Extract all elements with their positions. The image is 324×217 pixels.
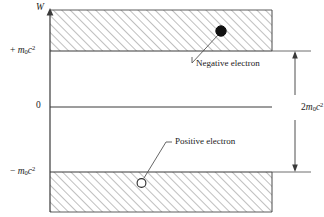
annotation-positive-electron: Positive electron: [175, 137, 235, 146]
gap-measure-label: 2m0c2: [301, 102, 323, 113]
axis-name-energy: W: [36, 3, 44, 13]
tick-symbol-mass-upper: m: [18, 45, 25, 55]
tick-exponent-lower: 2: [32, 165, 35, 172]
tick-sign-positive: +: [10, 45, 15, 55]
upper-continuum-band: [50, 10, 272, 51]
tick-label-positive-rest-energy: + m0c2: [10, 45, 35, 56]
gap-exponent: 2: [320, 101, 323, 108]
tick-exponent-upper: 2: [32, 44, 35, 51]
tick-label-zero: 0: [36, 101, 41, 111]
gap-symbol-mass: m: [306, 102, 313, 112]
tick-label-negative-rest-energy: − m0c2: [10, 166, 35, 177]
tick-sign-negative: −: [10, 166, 15, 176]
lower-continuum-band: [50, 172, 272, 212]
tick-symbol-mass-lower: m: [18, 166, 25, 176]
energy-level-diagram: W + m0c2 0 − m0c2 2m0c2 Negative electro…: [0, 0, 324, 217]
annotation-negative-electron: Negative electron: [196, 59, 260, 68]
diagram-canvas: [0, 0, 324, 217]
